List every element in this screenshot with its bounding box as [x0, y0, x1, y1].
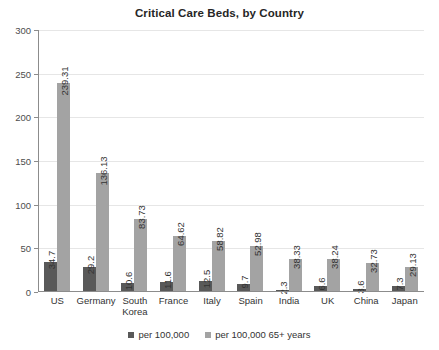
y-axis-tick-label: 0: [26, 287, 31, 298]
bar-pair: 9.752.98: [237, 30, 263, 292]
y-axis-tick-label: 200: [15, 112, 31, 123]
bar-value-label: 136.13: [98, 157, 109, 186]
x-axis-label: Japan: [385, 295, 424, 317]
chart-title: Critical Care Beds, by Country: [0, 7, 439, 19]
bar[interactable]: 38.33: [289, 259, 302, 292]
bar-value-label: 6.6: [316, 278, 327, 291]
bar-group: 2.338.33: [270, 30, 309, 292]
bar-value-label: 10.6: [123, 272, 134, 291]
legend-item[interactable]: per 100,000: [128, 329, 189, 340]
x-axis-label: Italy: [193, 295, 232, 317]
legend-label: per 100,000 65+ years: [215, 329, 310, 340]
bar-group: 9.752.98: [231, 30, 270, 292]
bar[interactable]: 52.98: [250, 246, 263, 292]
bar-pair: 34.7239.31: [44, 30, 70, 292]
bar-value-label: 32.73: [368, 250, 379, 274]
bar-group: 3.632.73: [347, 30, 386, 292]
plot-area: 050100150200250300 34.7239.3129.2136.131…: [38, 30, 424, 292]
bar-value-label: 9.7: [239, 275, 250, 288]
bar-pair: 6.638.24: [314, 30, 340, 292]
bar[interactable]: 38.24: [327, 259, 340, 292]
bar-value-label: 34.7: [46, 250, 57, 269]
bar-value-label: 83.73: [136, 205, 147, 229]
x-axis-label: Spain: [231, 295, 270, 317]
y-axis-tick: [34, 292, 38, 293]
legend-item[interactable]: per 100,000 65+ years: [205, 329, 310, 340]
bar-pair: 7.329.13: [392, 30, 418, 292]
bar-pair: 11.664.62: [160, 30, 186, 292]
x-axis-label: US: [38, 295, 77, 317]
legend-swatch-icon: [128, 332, 134, 338]
bar-value-label: 7.3: [394, 277, 405, 290]
bar-pair: 29.2136.13: [83, 30, 109, 292]
bar[interactable]: 32.73: [366, 263, 379, 292]
bar-value-label: 38.33: [291, 245, 302, 269]
x-axis-label: India: [270, 295, 309, 317]
bar-value-label: 29.13: [407, 253, 418, 277]
bar[interactable]: 58.82: [212, 241, 225, 292]
bar-group: 11.664.62: [154, 30, 193, 292]
bar-value-label: 239.31: [59, 66, 70, 95]
y-axis-tick-label: 100: [15, 199, 31, 210]
bar-group: 7.329.13: [385, 30, 424, 292]
bar[interactable]: 64.62: [173, 236, 186, 292]
bar-group: 12.558.82: [192, 30, 231, 292]
bar-pair: 10.683.73: [121, 30, 147, 292]
bar[interactable]: 29.2: [83, 267, 96, 293]
bar[interactable]: 83.73: [134, 219, 147, 292]
chart-legend: per 100,000per 100,000 65+ years: [0, 329, 439, 340]
bar-value-label: 58.82: [214, 227, 225, 251]
x-axis-label: France: [154, 295, 193, 317]
bar-group: 29.2136.13: [77, 30, 116, 292]
legend-swatch-icon: [205, 332, 211, 338]
bar[interactable]: 34.7: [44, 262, 57, 292]
bar-value-label: 11.6: [162, 271, 173, 289]
x-axis-label: South Korea: [116, 295, 155, 317]
chart-container: Critical Care Beds, by Country 050100150…: [0, 0, 439, 350]
bar-value-label: 38.24: [329, 245, 340, 269]
bar-pair: 2.338.33: [276, 30, 302, 292]
x-axis-label: Germany: [77, 295, 116, 317]
y-axis-tick-label: 150: [15, 156, 31, 167]
bar[interactable]: 239.31: [57, 83, 70, 292]
y-axis-tick-label: 300: [15, 25, 31, 36]
bar-pair: 3.632.73: [353, 30, 379, 292]
bar[interactable]: 136.13: [96, 173, 109, 292]
x-axis-label: China: [347, 295, 386, 317]
x-axis-category-labels: USGermanySouth KoreaFranceItalySpainIndi…: [38, 295, 424, 317]
bar-value-label: 64.62: [175, 222, 186, 246]
bar-value-label: 52.98: [252, 232, 263, 256]
x-axis-label: UK: [308, 295, 347, 317]
legend-label: per 100,000: [138, 329, 189, 340]
bar-group: 10.683.73: [115, 30, 154, 292]
bar-value-label: 29.2: [85, 255, 96, 274]
bar-groups: 34.7239.3129.2136.1310.683.7311.664.6212…: [38, 30, 424, 292]
y-axis-tick-label: 250: [15, 68, 31, 79]
bar-group: 34.7239.31: [38, 30, 77, 292]
y-axis-line: [38, 30, 39, 292]
y-axis-tick-label: 50: [20, 243, 31, 254]
x-axis-line: [38, 291, 424, 292]
bar-pair: 12.558.82: [199, 30, 225, 292]
bar-value-label: 12.5: [201, 270, 212, 289]
bar-value-label: 2.3: [278, 281, 289, 294]
bar[interactable]: 29.13: [405, 267, 418, 292]
bar-group: 6.638.24: [308, 30, 347, 292]
